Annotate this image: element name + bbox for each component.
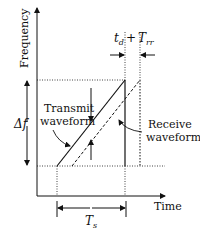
- receive-pointer: [119, 120, 142, 132]
- transmit-label: Transmit waveform: [40, 102, 98, 128]
- fmcw-diagram: Frequency Time Δf td+Trr Transmit wavefo…: [0, 0, 200, 234]
- y-axis-label: Frequency: [18, 8, 31, 68]
- receive-label: Receive waveform: [146, 118, 200, 144]
- transmit-pointer: [53, 130, 70, 146]
- delay-label: td+Trr: [114, 31, 155, 47]
- sweep-time-label: Ts: [85, 214, 97, 230]
- x-axis-label: Time: [154, 200, 182, 213]
